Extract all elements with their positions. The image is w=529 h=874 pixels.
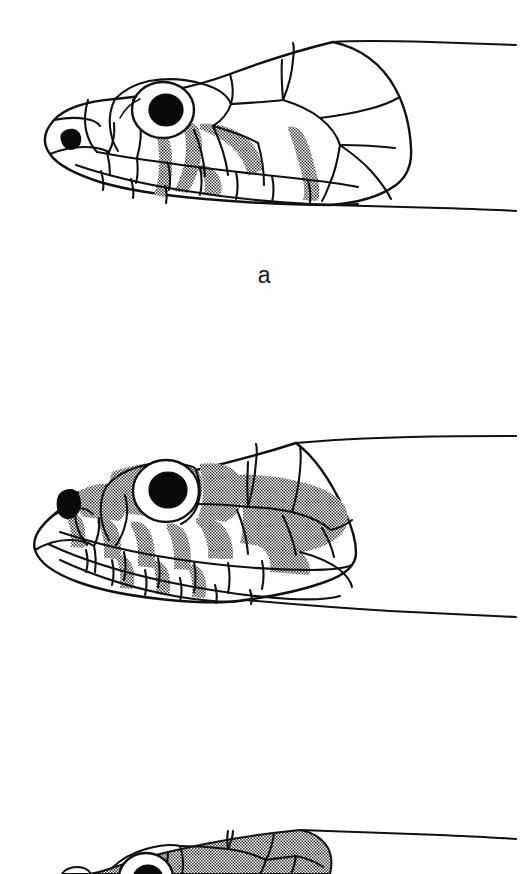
panel-c (0, 800, 529, 874)
snake-head-drawing-a (0, 0, 529, 250)
eye-pupil-a (149, 94, 183, 126)
snake-head-drawing-c (0, 800, 529, 874)
head-outline-a (45, 42, 411, 205)
eye-pupil-b (149, 472, 187, 508)
scale-seam-dorsal-7-c (227, 831, 228, 849)
snout-scale-c (62, 867, 91, 874)
nostril-b (57, 490, 80, 519)
panel-a: a (0, 0, 529, 250)
neck-line-lower-b (245, 600, 516, 617)
panel-label-a: a (0, 262, 529, 289)
scale-seam-dorsal-7-b (247, 462, 248, 507)
figure-plate: a (0, 0, 529, 874)
neck-line-upper-b (296, 436, 516, 443)
panel-b: b (0, 400, 529, 650)
neck-line-upper-c (300, 830, 516, 839)
neck-line-upper-a (333, 41, 516, 45)
snake-head-drawing-b (0, 400, 529, 650)
nostril-a (61, 129, 81, 149)
neck-line-lower-a (330, 205, 516, 211)
